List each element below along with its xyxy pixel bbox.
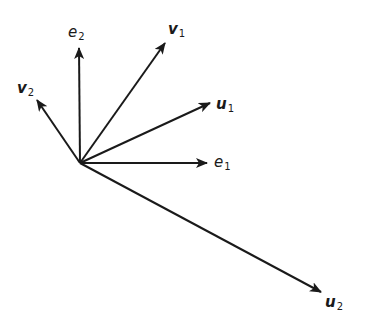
label-e2-sub: 2: [78, 31, 84, 42]
label-v2: v2: [17, 80, 34, 98]
label-v2-main: v: [17, 79, 27, 97]
vector-e2-arrow: [79, 48, 80, 163]
vector-v1-arrow: [80, 43, 165, 163]
label-u1: u1: [216, 96, 234, 114]
vector-u1-arrow: [80, 103, 210, 163]
label-v2-sub: 2: [28, 87, 34, 98]
label-v1-main: v: [168, 20, 178, 38]
label-v1: v1: [168, 21, 185, 39]
label-u2-sub: 2: [337, 301, 343, 312]
vector-v2-arrow: [37, 100, 80, 163]
label-e1-main: e: [214, 153, 223, 171]
vector-u2-arrow: [80, 163, 321, 292]
label-e1: e1: [214, 154, 231, 172]
label-u2-main: u: [325, 293, 336, 311]
vector-diagram: e1 e2 v1 v2 u1 u2: [0, 0, 365, 324]
label-e1-sub: 1: [224, 161, 230, 172]
label-u1-main: u: [216, 95, 227, 113]
label-e2-main: e: [68, 23, 77, 41]
label-e2: e2: [68, 24, 85, 42]
label-u1-sub: 1: [228, 103, 234, 114]
label-v1-sub: 1: [179, 28, 185, 39]
label-u2: u2: [325, 294, 343, 312]
vector-arrows: [0, 0, 365, 324]
